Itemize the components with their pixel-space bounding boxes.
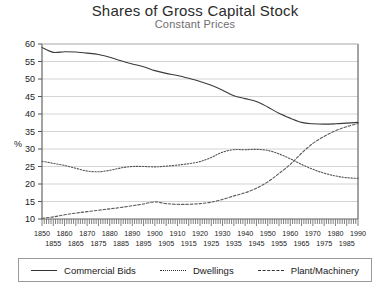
series-line — [42, 48, 358, 125]
x-axis-tick-labels: 1850186018701880189019001910192019301940… — [34, 229, 366, 248]
svg-text:1900: 1900 — [147, 229, 163, 238]
svg-text:1915: 1915 — [181, 239, 197, 248]
svg-text:10: 10 — [25, 214, 35, 224]
legend-swatch-solid-icon — [31, 270, 57, 271]
svg-text:1885: 1885 — [113, 239, 129, 248]
svg-text:1855: 1855 — [45, 239, 61, 248]
svg-text:1930: 1930 — [215, 229, 231, 238]
svg-text:1910: 1910 — [169, 229, 185, 238]
legend-item[interactable]: Dwellings — [160, 265, 234, 276]
svg-text:30: 30 — [25, 144, 35, 154]
svg-text:1965: 1965 — [294, 239, 310, 248]
svg-text:1940: 1940 — [237, 229, 253, 238]
series-line — [42, 149, 358, 178]
svg-text:60: 60 — [25, 39, 35, 49]
svg-text:1905: 1905 — [158, 239, 174, 248]
svg-text:1920: 1920 — [192, 229, 208, 238]
svg-text:1970: 1970 — [305, 229, 321, 238]
svg-text:1870: 1870 — [79, 229, 95, 238]
svg-text:1980: 1980 — [327, 229, 343, 238]
svg-text:1935: 1935 — [226, 239, 242, 248]
svg-text:1925: 1925 — [203, 239, 219, 248]
legend-swatch-dotted-icon — [160, 270, 186, 271]
legend-item-label: Commercial Bids — [64, 265, 136, 276]
legend-swatch-dashed-icon — [258, 270, 284, 271]
plot-area: 1015202530354045505560 18501860187018801… — [0, 0, 390, 250]
svg-text:20: 20 — [25, 179, 35, 189]
svg-text:1975: 1975 — [316, 239, 332, 248]
gridlines — [42, 44, 358, 202]
x-axis-minor-ticks — [42, 219, 358, 226]
plot-svg: 1015202530354045505560 18501860187018801… — [0, 0, 390, 250]
chart-container: Shares of Gross Capital Stock Constant P… — [0, 0, 390, 295]
svg-text:25: 25 — [25, 162, 35, 172]
svg-text:1860: 1860 — [57, 229, 73, 238]
svg-text:1880: 1880 — [102, 229, 118, 238]
svg-text:1875: 1875 — [90, 239, 106, 248]
svg-text:1990: 1990 — [350, 229, 366, 238]
legend-item[interactable]: Commercial Bids — [31, 265, 136, 276]
svg-text:1945: 1945 — [248, 239, 264, 248]
svg-text:55: 55 — [25, 57, 35, 67]
svg-text:1865: 1865 — [68, 239, 84, 248]
svg-text:1960: 1960 — [282, 229, 298, 238]
svg-text:1895: 1895 — [136, 239, 152, 248]
svg-text:35: 35 — [25, 127, 35, 137]
svg-text:1850: 1850 — [34, 229, 50, 238]
legend-item-label: Dwellings — [193, 265, 234, 276]
svg-text:1985: 1985 — [339, 239, 355, 248]
y-axis-ticks: 1015202530354045505560 — [25, 39, 35, 224]
data-series — [42, 48, 358, 219]
chart-legend: Commercial Bids Dwellings Plant/Machiner… — [18, 258, 372, 282]
legend-item-label: Plant/Machinery — [291, 265, 359, 276]
svg-text:1890: 1890 — [124, 229, 140, 238]
legend-item[interactable]: Plant/Machinery — [258, 265, 359, 276]
svg-text:1955: 1955 — [271, 239, 287, 248]
svg-text:15: 15 — [25, 197, 35, 207]
svg-text:40: 40 — [25, 109, 35, 119]
svg-text:1950: 1950 — [260, 229, 276, 238]
svg-text:50: 50 — [25, 74, 35, 84]
svg-text:45: 45 — [25, 92, 35, 102]
